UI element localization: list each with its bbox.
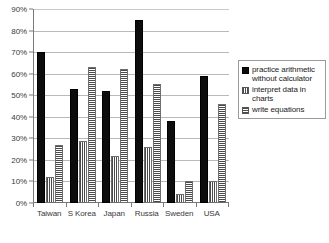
x-axis-tick-mark (33, 203, 34, 207)
bar-group (67, 9, 100, 203)
x-axis-tick-label: Taiwan (37, 209, 61, 218)
bars-layer (34, 9, 229, 203)
legend-item-label: write equations (252, 105, 304, 114)
y-axis-tick-label: 60% (11, 69, 27, 78)
y-axis-tick-label: 40% (11, 112, 27, 121)
bar-group (34, 9, 67, 203)
x-axis-tick-mark (131, 203, 132, 207)
y-axis-tick-label: 20% (11, 155, 27, 164)
y-axis-tick-label: 50% (11, 91, 27, 100)
x-axis-tick-mark (163, 203, 164, 207)
bar (70, 89, 78, 203)
bar-group (132, 9, 165, 203)
y-axis-tick-label: 80% (11, 26, 27, 35)
bar (55, 145, 63, 203)
y-axis-tick-label: 70% (11, 48, 27, 57)
x-axis-tick-mark (98, 203, 99, 207)
legend-swatch-icon (242, 107, 249, 114)
legend-item: practice arithmetic without calculator (242, 65, 322, 83)
bar-group (99, 9, 132, 203)
x-axis-tick-label: Russia (135, 209, 159, 218)
y-axis-tick-label: 30% (11, 134, 27, 143)
bar-group (197, 9, 230, 203)
x-axis-tick-mark (66, 203, 67, 207)
x-axis-tick-label: USA (204, 209, 220, 218)
legend-item: interpret data in charts (242, 85, 322, 103)
bar (144, 147, 152, 203)
bar (176, 194, 184, 203)
bar (79, 141, 87, 204)
y-axis-tick-label: 90% (11, 5, 27, 14)
bar (185, 181, 193, 203)
legend-swatch-icon (242, 87, 249, 94)
x-axis-tick-mark (196, 203, 197, 207)
x-axis-ticks (33, 203, 229, 208)
legend-item-label: interpret data in charts (252, 85, 322, 103)
x-axis-tick-label: Sweden (165, 209, 193, 218)
bar (200, 76, 208, 203)
x-axis-tick-label: Japan (104, 209, 125, 218)
legend-swatch-icon (242, 67, 249, 74)
legend-item-label: practice arithmetic without calculator (252, 65, 322, 83)
bar-chart-figure: 0%10%20%30%40%50%60%70%80%90% TaiwanS Ko… (0, 0, 329, 243)
bar (111, 156, 119, 203)
bar (218, 104, 226, 203)
bar (88, 67, 96, 203)
y-axis-tick-label: 10% (11, 177, 27, 186)
bar (167, 121, 175, 203)
x-axis-tick-mark (228, 203, 229, 207)
y-axis: 0%10%20%30%40%50%60%70%80%90% (0, 0, 33, 212)
bar-group (164, 9, 197, 203)
bar (153, 84, 161, 203)
y-axis-tick-label: 0% (16, 199, 27, 208)
bar (209, 181, 217, 203)
bar (102, 91, 110, 203)
chart-legend: practice arithmetic without calculatorin… (238, 60, 326, 119)
bar (120, 69, 128, 203)
bar (135, 20, 143, 203)
x-axis-tick-label: S Korea (68, 209, 96, 218)
bar (46, 177, 54, 203)
bar (37, 52, 45, 203)
x-axis: TaiwanS KoreaJapanRussiaSwedenUSA (33, 209, 229, 225)
legend-item: write equations (242, 105, 322, 114)
